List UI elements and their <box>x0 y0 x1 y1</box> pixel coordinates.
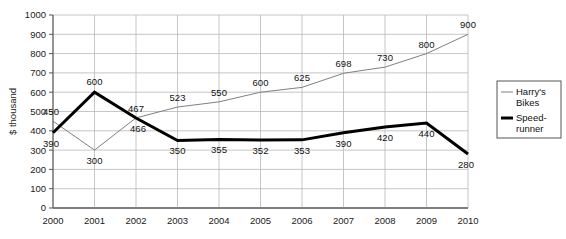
y-tick-label: 900 <box>30 29 46 40</box>
data-label: 800 <box>419 39 435 50</box>
x-tick-label: 2008 <box>374 215 395 226</box>
legend-label: Harry's <box>516 86 546 97</box>
data-label: 420 <box>377 132 393 143</box>
line-chart: 01002003004005006007008009001000 2000200… <box>0 0 566 239</box>
y-tick-label: 0 <box>41 202 46 213</box>
x-tick-label: 2006 <box>291 215 312 226</box>
x-tick-label: 2004 <box>208 215 229 226</box>
legend-label: Speed- <box>516 112 547 123</box>
y-tick-label: 700 <box>30 67 46 78</box>
data-label: 300 <box>87 155 103 166</box>
data-label: 280 <box>458 159 474 170</box>
gridlines <box>53 15 468 208</box>
y-axis-title-text: $ thousand <box>7 88 18 135</box>
x-tick-label: 2002 <box>125 215 146 226</box>
data-label: 698 <box>336 58 352 69</box>
data-label: 390 <box>43 138 59 149</box>
x-tick-label: 2007 <box>333 215 354 226</box>
y-axis-title: $ thousand <box>7 88 18 135</box>
data-label: 355 <box>211 144 227 155</box>
x-tick-label: 2000 <box>42 215 63 226</box>
data-label: 350 <box>170 145 186 156</box>
x-tick-label: 2001 <box>84 215 105 226</box>
data-label: 730 <box>377 52 393 63</box>
data-label: 440 <box>419 128 435 139</box>
y-tick-label: 1000 <box>25 9 46 20</box>
data-point-labels: 4503004675235506006256987308009003906004… <box>43 19 476 170</box>
x-tick-label: 2003 <box>167 215 188 226</box>
data-label: 550 <box>211 87 227 98</box>
x-tick-label: 2005 <box>250 215 271 226</box>
legend: Harry'sBikesSpeed-runner <box>497 81 561 138</box>
x-tick-label: 2010 <box>457 215 478 226</box>
y-tick-label: 800 <box>30 48 46 59</box>
chart-canvas: 01002003004005006007008009001000 2000200… <box>0 0 566 239</box>
y-tick-label: 200 <box>30 164 46 175</box>
x-tick-label: 2009 <box>416 215 437 226</box>
data-label: 352 <box>253 145 269 156</box>
data-label: 390 <box>336 138 352 149</box>
data-label: 467 <box>128 103 144 114</box>
data-label: 625 <box>294 72 310 83</box>
data-label: 450 <box>43 106 59 117</box>
y-tick-label: 100 <box>30 183 46 194</box>
data-label: 466 <box>130 123 146 134</box>
legend-label: runner <box>516 123 543 134</box>
data-label: 600 <box>253 77 269 88</box>
data-label: 353 <box>294 145 310 156</box>
data-label: 600 <box>87 76 103 87</box>
legend-label: Bikes <box>516 97 539 108</box>
x-tick-labels: 2000200120022003200420052006200720082009… <box>42 215 478 226</box>
y-tick-label: 600 <box>30 87 46 98</box>
data-label: 900 <box>460 19 476 30</box>
data-label: 523 <box>170 92 186 103</box>
y-tick-label: 400 <box>30 125 46 136</box>
